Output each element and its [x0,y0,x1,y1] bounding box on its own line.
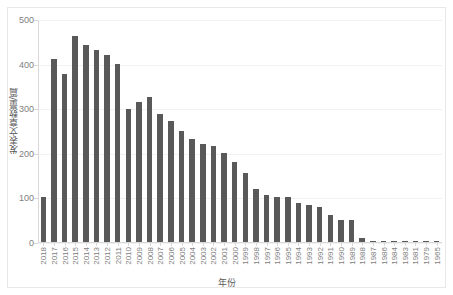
x-tick-mark [267,243,268,246]
bar [349,19,355,242]
x-tick-mark [203,243,204,246]
bar [94,19,100,242]
bar-fill [391,241,397,242]
bar [317,19,323,242]
bar [189,19,195,242]
y-tick-label: 300 [6,104,34,114]
x-tick-mark [320,243,321,246]
x-tick-label: 2006 [167,247,176,265]
x-tick-mark [118,243,119,246]
bar [306,19,312,242]
bar-fill [243,173,249,242]
bar-fill [328,215,334,242]
x-tick-mark [54,243,55,246]
x-tick-mark [235,243,236,246]
x-tick-mark [405,243,406,246]
bar-fill [370,241,376,242]
x-tick-mark [426,243,427,246]
bar [136,19,142,242]
x-tick-mark [415,243,416,246]
x-tick-mark [256,243,257,246]
bar-fill [94,50,100,242]
bar-fill [189,139,195,242]
bar [402,19,408,242]
bar [115,19,121,242]
bar [423,19,429,242]
bar [328,19,334,242]
bar-fill [402,241,408,242]
bar-fill [115,64,121,242]
x-tick-mark [65,243,66,246]
x-tick-label: 1987 [369,247,378,265]
x-tick-label: 2014 [82,247,91,265]
bar-fill [126,109,132,242]
x-tick-mark [373,243,374,246]
x-tick-label: 1991 [326,247,335,265]
bar-series [38,20,442,243]
x-axis-tick-labels: 2018201720162015201420132012201120102009… [38,247,442,277]
bar [413,19,419,242]
x-tick-label: 1998 [252,247,261,265]
x-tick-label: 2000 [231,247,240,265]
x-tick-label: 2010 [124,247,133,265]
x-tick-label: 1983 [401,247,410,265]
x-tick-label: 2016 [61,247,70,265]
bar [243,19,249,242]
x-axis-title: 年份 [0,276,453,289]
x-tick-mark [437,243,438,246]
bar-fill [274,197,280,242]
bar [51,19,57,242]
x-tick-mark [309,243,310,246]
x-tick-label: 2017 [50,247,59,265]
bar-fill [62,74,68,242]
bar [72,19,78,242]
bar-fill [285,197,291,242]
x-tick-label: 1992 [316,247,325,265]
bar-fill [264,195,270,242]
bar [157,19,163,242]
x-tick-label: 2004 [188,247,197,265]
bar [370,19,376,242]
x-tick-label: 1997 [263,247,272,265]
bar [391,19,397,242]
bar [381,19,387,242]
bar-fill [359,238,365,242]
bar-fill [51,59,57,242]
bar [434,19,440,242]
bar-fill [200,144,206,242]
y-tick-label: 500 [6,15,34,25]
x-tick-mark [330,243,331,246]
x-tick-label: 2009 [135,247,144,265]
x-tick-label: 1988 [358,247,367,265]
bar [264,19,270,242]
y-tick-label: 400 [6,60,34,70]
bar [221,19,227,242]
x-tick-label: 1986 [380,247,389,265]
bar [83,19,89,242]
x-tick-mark [245,243,246,246]
x-tick-label: 2013 [92,247,101,265]
x-tick-label: 2008 [146,247,155,265]
x-tick-label: 1996 [273,247,282,265]
bar-fill [232,162,238,242]
x-tick-mark [150,243,151,246]
x-tick-mark [288,243,289,246]
bar-fill [253,189,259,242]
bar [285,19,291,242]
bar-fill [296,203,302,242]
x-tick-mark [298,243,299,246]
x-tick-label: 1995 [284,247,293,265]
bar-chart: 发表文章数量/篇 0100200300400500 20182017201620… [0,0,453,295]
bar-fill [338,220,344,242]
bar-fill [136,102,142,242]
bar [41,19,47,242]
x-tick-label: 2015 [71,247,80,265]
x-tick-label: 2001 [220,247,229,265]
bar-fill [41,197,47,242]
bar-fill [83,45,89,242]
x-tick-label: 2007 [156,247,165,265]
bar-fill [349,220,355,242]
x-tick-mark [107,243,108,246]
bar [296,19,302,242]
y-tick-label: 0 [6,238,34,248]
